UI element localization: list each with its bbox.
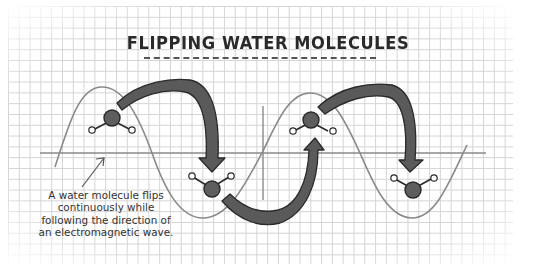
flip-arrow-1 bbox=[117, 79, 225, 172]
caption-line-1: A water molecule flips bbox=[6, 189, 206, 201]
caption-line-3: following the direction of bbox=[6, 214, 206, 226]
water-molecule-4 bbox=[391, 175, 437, 198]
caption-text: A water molecule flips continuously whil… bbox=[6, 189, 206, 239]
hydrogen-atom-icon bbox=[431, 175, 437, 181]
hydrogen-atom-icon bbox=[228, 173, 234, 179]
hydrogen-atom-icon bbox=[89, 127, 95, 133]
oxygen-atom-icon bbox=[204, 181, 220, 197]
oxygen-atom-icon bbox=[405, 182, 421, 198]
oxygen-atom-icon bbox=[303, 112, 319, 128]
hydrogen-atom-icon bbox=[290, 128, 296, 134]
water-molecule-1 bbox=[89, 110, 135, 133]
caption-line-4: an electromagnetic wave. bbox=[6, 226, 206, 238]
hydrogen-atom-icon bbox=[330, 128, 336, 134]
flip-arrow-2 bbox=[222, 138, 324, 225]
hydrogen-atom-icon bbox=[391, 175, 397, 181]
hydrogen-atom-icon bbox=[189, 173, 195, 179]
oxygen-atom-icon bbox=[104, 110, 120, 126]
caption-line-2: continuously while bbox=[6, 201, 206, 213]
water-molecule-3 bbox=[290, 112, 336, 134]
hydrogen-atom-icon bbox=[129, 127, 135, 133]
caption-pointer-arrow bbox=[82, 158, 104, 187]
